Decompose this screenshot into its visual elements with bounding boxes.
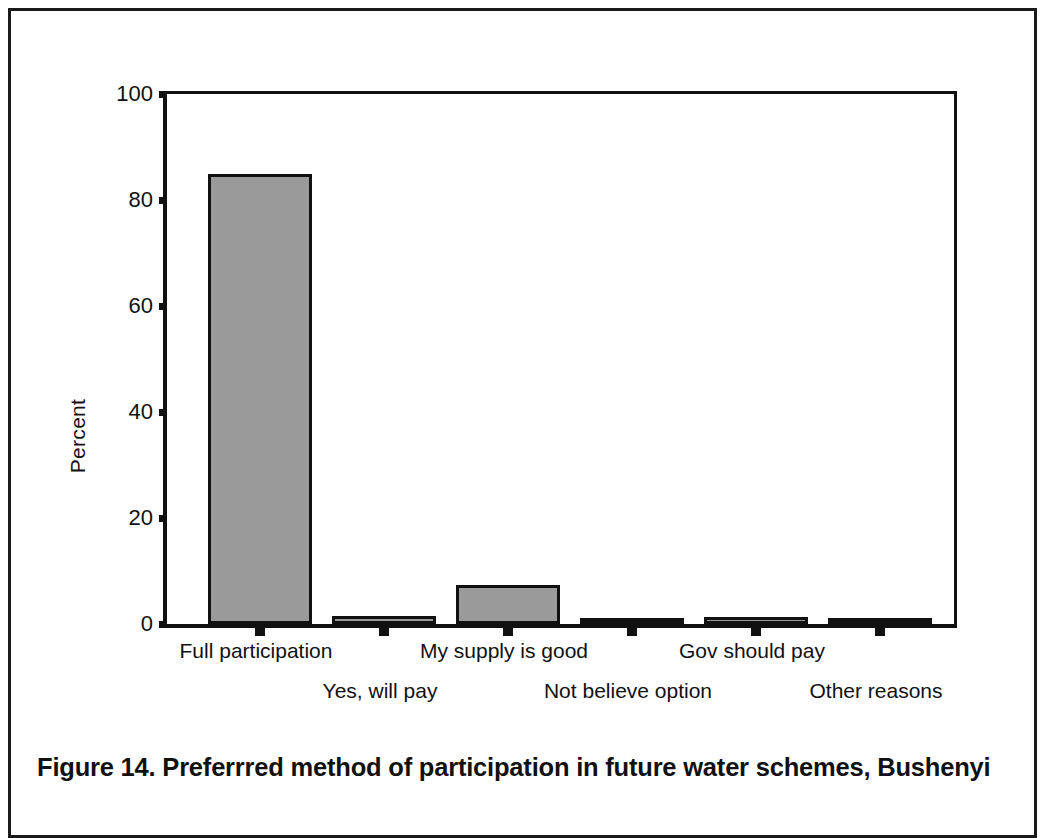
y-axis-tick-label: 100 [116,81,167,107]
y-axis-tick-label: 0 [141,611,167,637]
x-axis-category-label: My supply is good [420,639,588,663]
x-axis-tick-mark [751,628,761,636]
x-axis-category-label: Yes, will pay [323,679,438,703]
x-axis-tick-mark [875,628,885,636]
bar [704,617,808,624]
x-axis-category-label: Gov should pay [679,639,825,663]
y-axis-tick-label: 40 [129,399,167,425]
bar [828,618,932,624]
figure-frame: Percent 020406080100 Full participationY… [8,8,1037,838]
y-axis-title: Percent [66,376,96,496]
x-axis-tick-mark [627,628,637,636]
x-axis-tick-mark [379,628,389,636]
y-axis-tick-label: 20 [129,505,167,531]
y-axis-tick-label: 80 [129,187,167,213]
y-axis-tick-label: 60 [129,293,167,319]
bar [456,585,560,624]
x-axis-category-label: Full participation [180,639,333,663]
x-axis-category-label: Not believe option [544,679,712,703]
x-axis-tick-mark [503,628,513,636]
bar [332,616,436,624]
x-axis-tick-mark [255,628,265,636]
x-axis-category-label: Other reasons [809,679,942,703]
bar [580,618,684,624]
plot-area: 020406080100 [163,91,957,628]
bar-chart: Percent 020406080100 Full participationY… [11,11,1040,711]
figure-caption: Figure 14. Preferrred method of particip… [37,753,1027,782]
bar [208,174,312,625]
